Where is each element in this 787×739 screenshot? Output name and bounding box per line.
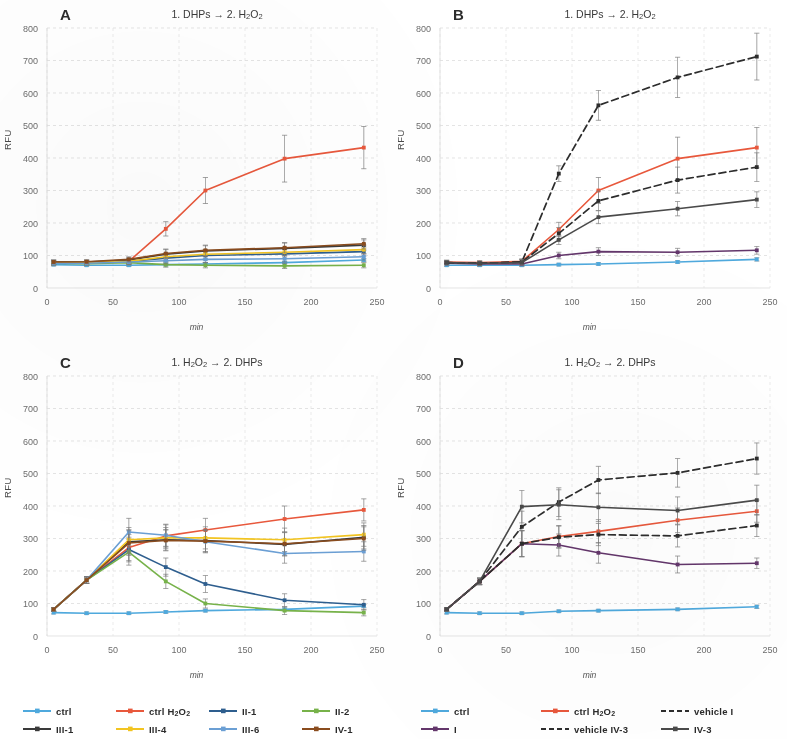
y-tick-label: 600 <box>416 89 431 99</box>
y-tick-label: 700 <box>416 56 431 66</box>
legend-item[interactable]: ctrl H2O2 <box>540 706 660 717</box>
legend-item[interactable]: III-1 <box>22 724 115 735</box>
series-ctrl <box>444 605 759 615</box>
x-axis-label: min <box>393 322 786 332</box>
legend-item[interactable]: vehicle IV-3 <box>540 724 660 735</box>
legend-swatch-icon <box>660 706 690 716</box>
y-tick-label: 800 <box>416 24 431 34</box>
series-iii-6 <box>51 518 366 611</box>
x-tick-label: 250 <box>762 297 777 307</box>
plot-area-C: 0100200300400500600700800050100150200250 <box>0 348 393 693</box>
panel-D: D 1. H2O2 → 2. DHPs RFU 0100200300400500… <box>393 348 787 693</box>
y-tick-label: 500 <box>23 121 38 131</box>
y-tick-label: 200 <box>23 567 38 577</box>
legend-swatch-icon <box>660 724 690 734</box>
plot-area-A: 0100200300400500600700800050100150200250 <box>0 0 393 345</box>
legend-swatch-icon <box>115 724 145 734</box>
series-ctrl-h2o2 <box>444 500 759 611</box>
y-tick-label: 200 <box>23 219 38 229</box>
legend-swatch-icon <box>540 706 570 716</box>
legend-item[interactable]: ctrl H2O2 <box>115 706 208 717</box>
y-tick-label: 500 <box>416 121 431 131</box>
legend-item[interactable]: IV-1 <box>301 724 394 735</box>
legend-item[interactable]: IV-3 <box>660 724 780 735</box>
legend-label: IV-3 <box>694 724 712 735</box>
x-tick-label: 0 <box>44 645 49 655</box>
legend-swatch-icon <box>301 724 331 734</box>
legend-label: ctrl <box>56 706 72 717</box>
y-tick-label: 400 <box>416 154 431 164</box>
series-iv-3 <box>444 485 759 611</box>
legend-item[interactable]: vehicle I <box>660 706 780 717</box>
series-iv-1 <box>51 527 366 612</box>
legend-item[interactable]: II-2 <box>301 706 394 717</box>
legend-label: I <box>454 724 457 735</box>
y-tick-label: 100 <box>23 599 38 609</box>
x-tick-label: 50 <box>501 297 511 307</box>
series-ctrl-h2o2 <box>51 126 366 264</box>
y-tick-label: 300 <box>23 186 38 196</box>
x-tick-label: 0 <box>437 645 442 655</box>
x-tick-label: 150 <box>630 645 645 655</box>
legend-label: ctrl <box>454 706 470 717</box>
legend-item[interactable]: III-6 <box>208 724 301 735</box>
y-tick-label: 200 <box>416 567 431 577</box>
series-vehicle-i <box>444 33 759 265</box>
x-tick-label: 200 <box>303 297 318 307</box>
y-tick-label: 200 <box>416 219 431 229</box>
legend-right: ctrlctrl H2O2vehicle IIvehicle IV-3IV-3 <box>420 702 780 738</box>
y-tick-label: 400 <box>23 154 38 164</box>
series-ii-1 <box>51 537 366 611</box>
y-tick-label: 500 <box>416 469 431 479</box>
x-tick-label: 250 <box>369 297 384 307</box>
legend-label: III-4 <box>149 724 166 735</box>
y-tick-label: 800 <box>23 372 38 382</box>
y-tick-label: 0 <box>33 632 38 642</box>
legend-item[interactable]: II-1 <box>208 706 301 717</box>
legend-label: III-6 <box>242 724 259 735</box>
x-tick-label: 100 <box>564 297 579 307</box>
y-tick-label: 0 <box>426 632 431 642</box>
legend-swatch-icon <box>301 706 331 716</box>
y-tick-label: 600 <box>23 89 38 99</box>
plot-area-B: 0100200300400500600700800050100150200250 <box>393 0 787 345</box>
x-tick-label: 100 <box>171 297 186 307</box>
x-axis-label: min <box>393 670 786 680</box>
y-tick-label: 100 <box>416 251 431 261</box>
legend-item[interactable]: ctrl <box>22 706 115 717</box>
y-tick-label: 800 <box>23 24 38 34</box>
y-tick-label: 400 <box>416 502 431 512</box>
series-iv-3 <box>444 192 759 265</box>
series-vehicle-iv-3 <box>444 153 759 265</box>
x-axis-label: min <box>0 322 393 332</box>
figure-panel-grid: A 1. DHPs → 2. H2O2 RFU 0100200300400500… <box>0 0 787 739</box>
x-tick-label: 250 <box>762 645 777 655</box>
legend-row: ctrlctrl H2O2vehicle I <box>420 702 780 720</box>
legend-row: ctrlctrl H2O2II-1II-2 <box>22 702 394 720</box>
panel-B: B 1. DHPs → 2. H2O2 RFU 0100200300400500… <box>393 0 787 345</box>
y-tick-label: 400 <box>23 502 38 512</box>
x-axis-label: min <box>0 670 393 680</box>
legend-label: ctrl H2O2 <box>149 706 190 717</box>
legend-swatch-icon <box>540 724 570 734</box>
legend-row: Ivehicle IV-3IV-3 <box>420 720 780 738</box>
legend-item[interactable]: ctrl <box>420 706 540 717</box>
legend-swatch-icon <box>208 724 238 734</box>
legend-label: II-1 <box>242 706 257 717</box>
x-tick-label: 200 <box>696 297 711 307</box>
plot-area-D: 0100200300400500600700800050100150200250 <box>393 348 787 693</box>
legend-label: vehicle I <box>694 706 733 717</box>
y-tick-label: 700 <box>416 404 431 414</box>
legend-item[interactable]: III-4 <box>115 724 208 735</box>
series-ctrl-h2o2 <box>444 127 759 264</box>
legend-item[interactable]: I <box>420 724 540 735</box>
x-tick-label: 50 <box>108 645 118 655</box>
legend-swatch-icon <box>420 724 450 734</box>
y-tick-label: 700 <box>23 404 38 414</box>
series-vehicle-i <box>444 443 759 611</box>
y-tick-label: 600 <box>416 437 431 447</box>
x-tick-label: 150 <box>630 297 645 307</box>
legend-swatch-icon <box>115 706 145 716</box>
panel-A: A 1. DHPs → 2. H2O2 RFU 0100200300400500… <box>0 0 393 345</box>
y-tick-label: 0 <box>426 284 431 294</box>
